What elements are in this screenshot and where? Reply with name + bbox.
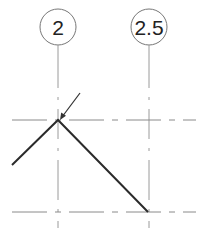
grid-2-5[interactable]: 2.5	[131, 9, 167, 228]
grid-2[interactable]: 2	[40, 9, 76, 228]
grid-label-2-5: 2.5	[134, 16, 163, 39]
grid-label-2: 2	[52, 16, 64, 39]
drawing-canvas: 2 2.5	[0, 0, 204, 230]
arrow-leader[interactable]	[60, 93, 80, 120]
arrow-leader-line	[62, 93, 80, 117]
profile-polyline[interactable]	[12, 120, 148, 212]
